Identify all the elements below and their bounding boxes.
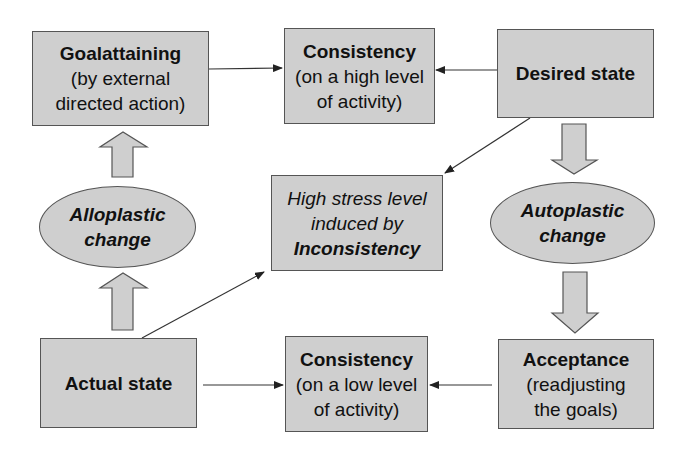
arrow-actual-to-stress [142, 272, 264, 338]
node-subtitle: of activity) [317, 89, 403, 114]
block-arrow-down-to-autoplastic [552, 124, 597, 174]
node-goalattaining: Goalattaining (by external directed acti… [32, 31, 209, 126]
node-autoplastic-change: Autoplastic change [490, 182, 655, 264]
node-label: Autoplastic [521, 198, 624, 223]
node-title: Consistency [303, 39, 416, 64]
node-label: High stress level [287, 186, 426, 211]
node-subtitle: of activity) [314, 397, 400, 422]
node-title: Consistency [300, 347, 413, 372]
node-title: Actual state [65, 371, 173, 396]
node-subtitle: (on a low level [296, 372, 417, 397]
arrow-goal-to-consistency-high [209, 68, 282, 69]
node-actual-state: Actual state [40, 338, 197, 428]
node-subtitle: (on a high level [295, 64, 424, 89]
node-alloplastic-change: Alloplastic change [39, 186, 196, 268]
node-desired-state: Desired state [497, 29, 654, 118]
node-title: Desired state [516, 61, 635, 86]
node-consistency-high: Consistency (on a high level of activity… [284, 28, 435, 124]
node-title: Goalattaining [60, 41, 181, 66]
node-acceptance: Acceptance (readjusting the goals) [498, 339, 654, 429]
block-arrow-up-to-alloplastic [100, 273, 147, 330]
node-label: change [539, 223, 606, 248]
node-label-emphasis: Inconsistency [294, 236, 421, 261]
node-subtitle: directed action) [56, 91, 186, 116]
node-high-stress: High stress level induced by Inconsisten… [271, 175, 443, 271]
node-subtitle: the goals) [534, 397, 617, 422]
block-arrow-down-to-acceptance [552, 272, 598, 333]
node-subtitle: (readjusting [526, 372, 625, 397]
node-subtitle: (by external [71, 66, 170, 91]
node-label: induced by [311, 211, 403, 236]
node-consistency-low: Consistency (on a low level of activity) [285, 336, 428, 432]
arrow-desired-to-stress [445, 118, 530, 173]
node-label: change [84, 227, 151, 252]
block-arrow-up-to-goal [100, 132, 147, 177]
node-label: Alloplastic [69, 202, 165, 227]
node-title: Acceptance [523, 347, 630, 372]
